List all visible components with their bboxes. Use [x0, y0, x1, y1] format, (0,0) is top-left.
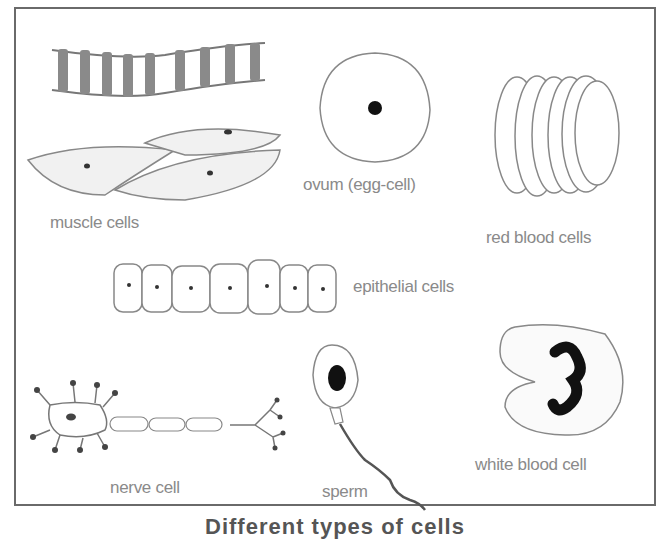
epithelial-cells-illustration — [112, 258, 352, 318]
red-blood-cells-illustration — [492, 70, 642, 210]
label-red-blood-cells: red blood cells — [486, 228, 591, 248]
label-sperm: sperm — [322, 482, 368, 502]
muscle-cells-illustration — [25, 35, 275, 205]
ovum-illustration — [315, 50, 435, 165]
label-muscle-cells: muscle cells — [50, 213, 139, 233]
figure-caption: Different types of cells — [0, 514, 670, 540]
label-ovum: ovum (egg-cell) — [303, 175, 416, 195]
white-blood-cell-illustration — [495, 322, 630, 442]
label-white-blood-cell: white blood cell — [475, 455, 586, 475]
label-nerve-cell: nerve cell — [110, 478, 180, 498]
label-epithelial-cells: epithelial cells — [353, 277, 454, 297]
nerve-cell-illustration — [25, 375, 285, 465]
